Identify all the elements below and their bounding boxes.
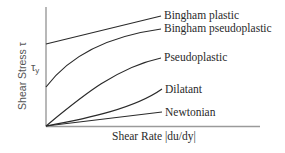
x-axis-label: Shear Rate |du/dy| (112, 131, 196, 143)
curve-bingham-plastic (46, 16, 161, 44)
label-pseudoplastic: Pseudoplastic (164, 52, 227, 64)
tau-subscript: y (35, 66, 39, 75)
curve-bingham-pseudoplastic (46, 29, 161, 87)
label-newtonian: Newtonian (165, 107, 215, 119)
curve-dilatant (46, 89, 162, 126)
label-bingham-pseudoplastic: Bingham pseudoplastic (164, 23, 272, 35)
y-axis-label: Shear Stress τ (17, 42, 28, 110)
curve-newtonian (46, 112, 162, 126)
label-dilatant: Dilatant (165, 84, 202, 96)
label-bingham-plastic: Bingham plastic (164, 10, 239, 22)
yield-stress-annotation: τy (31, 62, 39, 75)
